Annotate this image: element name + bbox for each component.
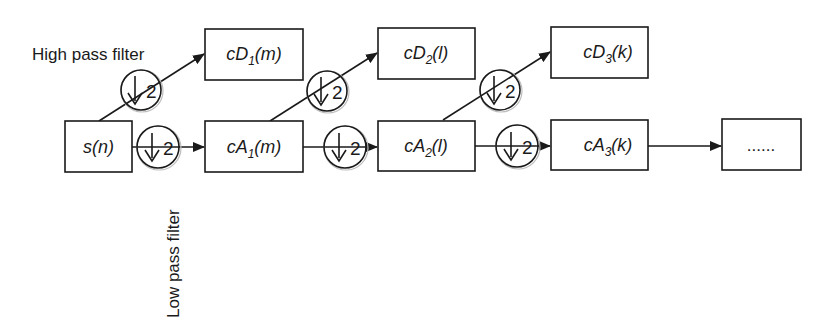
node-continuation: ......: [722, 119, 801, 170]
low-pass-filter-label: Low pass filter: [164, 209, 183, 318]
wavelet-decomposition-diagram: High pass filter Low pass filter s(n) cD…: [0, 0, 833, 331]
downsample-lp3: 2: [496, 125, 540, 169]
node-cA1: cA1(m): [205, 121, 303, 172]
downsample-lp2: 2: [324, 126, 368, 170]
node-cA2: cA2(l): [378, 121, 475, 171]
downsample-factor: 2: [350, 138, 361, 159]
downsample-hp1: 2: [121, 70, 163, 112]
node-cD2: cD2(l): [378, 28, 475, 79]
node-cD3: cD3(k): [551, 27, 648, 78]
node-cD1: cD1(m): [205, 29, 303, 80]
node-cA3: cA3(k): [551, 120, 648, 170]
node-s: s(n): [65, 121, 132, 172]
downsample-hp2: 2: [307, 71, 349, 113]
high-pass-filter-label: High pass filter: [32, 45, 145, 64]
downsample-lp1: 2: [137, 126, 181, 170]
downsample-factor: 2: [332, 82, 343, 103]
input-label: s(n): [83, 137, 114, 157]
downsample-factor: 2: [163, 138, 174, 159]
downsample-factor: 2: [505, 81, 516, 102]
continuation-label: ......: [747, 136, 775, 155]
downsample-factor: 2: [146, 81, 157, 102]
downsample-factor: 2: [522, 137, 533, 158]
downsample-hp3: 2: [480, 70, 522, 112]
